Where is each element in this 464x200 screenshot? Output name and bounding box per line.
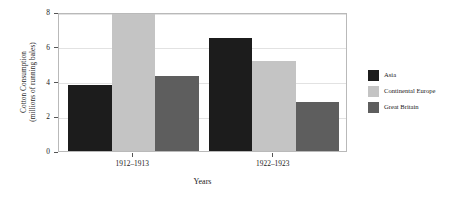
legend-item: Asia — [368, 68, 435, 82]
x-axis-tick — [272, 153, 273, 157]
y-axis-title-line-1: Cotton Consumption — [20, 42, 29, 122]
legend-label: Continental Europe — [384, 87, 435, 95]
x-axis-tick-label: 1922–1923 — [233, 159, 313, 168]
gridline — [59, 48, 346, 49]
bar — [296, 102, 340, 151]
legend-item: Great Britain — [368, 100, 435, 114]
plot-area — [58, 13, 347, 152]
legend-swatch — [368, 102, 379, 113]
legend-label: Asia — [384, 71, 396, 79]
x-axis-title: Years — [58, 177, 347, 187]
x-axis-tick — [132, 153, 133, 157]
y-axis-tick-label: 2 — [36, 113, 50, 121]
legend: AsiaContinental EuropeGreat Britain — [368, 68, 435, 116]
gridline — [59, 14, 346, 15]
bar — [209, 38, 253, 151]
bar — [112, 14, 156, 151]
bar — [252, 61, 296, 151]
legend-swatch — [368, 70, 379, 81]
y-axis-tick-label: 4 — [36, 79, 50, 87]
y-axis-tick-label: 6 — [36, 44, 50, 52]
gridline — [59, 83, 346, 84]
bar — [68, 85, 112, 151]
x-axis-tick-label: 1912–1913 — [92, 159, 172, 168]
legend-label: Great Britain — [384, 103, 419, 111]
legend-item: Continental Europe — [368, 84, 435, 98]
y-axis-tick-label: 0 — [36, 148, 50, 156]
bar-chart-figure: Cotton Consumption (millions of running … — [0, 0, 464, 200]
y-axis-tick-label: 8 — [36, 9, 50, 17]
legend-swatch — [368, 86, 379, 97]
bar — [155, 76, 199, 151]
